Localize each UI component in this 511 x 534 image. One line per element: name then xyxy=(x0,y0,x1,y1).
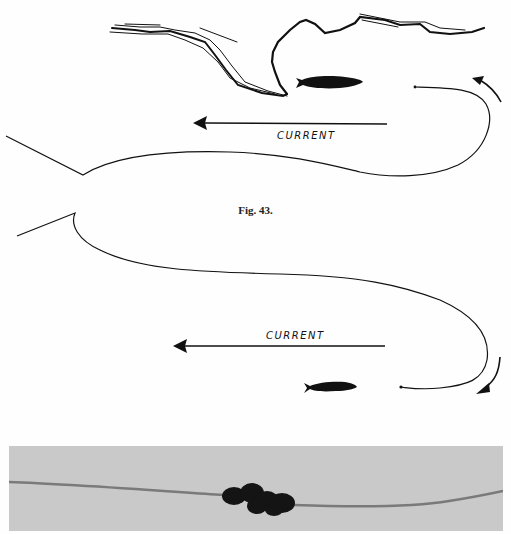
curved-direction-arrow-icon xyxy=(472,76,501,102)
top-diagram: CURRENT xyxy=(6,14,501,176)
photo-content xyxy=(9,446,503,531)
current-label: CURRENT xyxy=(277,130,336,141)
fish-silhouette-icon xyxy=(304,382,357,393)
line-loop xyxy=(6,87,490,176)
book-page: CURRENT CURRENT xyxy=(0,0,511,534)
bottom-diagram: CURRENT xyxy=(17,213,500,394)
fish-silhouette-icon xyxy=(296,76,363,88)
photo-line-tangle xyxy=(9,446,503,531)
riverbank-outline xyxy=(110,14,484,96)
current-arrow-icon xyxy=(193,116,387,130)
current-label: CURRENT xyxy=(266,330,325,341)
line-loop xyxy=(17,213,487,389)
current-arrow-icon xyxy=(173,339,385,353)
figure-caption: Fig. 43. xyxy=(0,204,511,216)
